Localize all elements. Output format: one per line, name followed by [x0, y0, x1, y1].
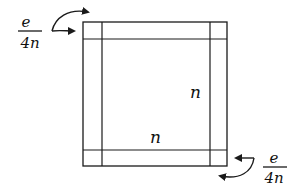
diagram-canvas: n n e 4n e 4n	[0, 0, 302, 195]
side-label-right: n	[190, 82, 201, 102]
top-left-denominator: 4n	[19, 34, 39, 52]
bottom-right-numerator: e	[270, 149, 279, 167]
bottom-right-denominator: 4n	[263, 169, 283, 187]
bottom-right-curved-arrow-icon	[220, 158, 254, 177]
side-label-bottom: n	[150, 127, 161, 147]
top-left-numerator: e	[22, 13, 31, 31]
